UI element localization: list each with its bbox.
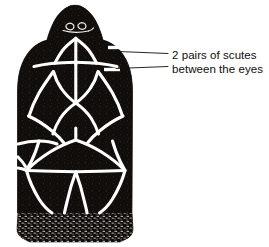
turtle-head-illustration (0, 0, 269, 247)
seam-nape-apex-right (76, 171, 125, 172)
figure-page: 2 pairs of scutes between the eyes (0, 0, 269, 247)
upper-leader-line (118, 52, 168, 54)
annotation-label-line-1: 2 pairs of scutes (172, 49, 257, 63)
annotation-label-line-2: between the eyes (172, 63, 263, 77)
seam-nape-apex-left (27, 171, 76, 172)
